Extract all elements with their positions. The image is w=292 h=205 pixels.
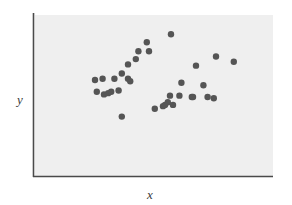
data-point bbox=[204, 94, 210, 100]
data-point bbox=[133, 56, 139, 62]
data-point bbox=[135, 48, 141, 54]
data-point bbox=[211, 95, 217, 101]
x-axis-label: x bbox=[146, 187, 153, 202]
data-point bbox=[146, 48, 152, 54]
data-point bbox=[115, 87, 121, 93]
data-point bbox=[144, 39, 150, 45]
data-point bbox=[176, 92, 182, 98]
data-point bbox=[119, 70, 125, 76]
data-point bbox=[193, 62, 199, 68]
data-point bbox=[119, 113, 125, 119]
data-point bbox=[125, 61, 131, 67]
data-point bbox=[94, 89, 100, 95]
data-point bbox=[213, 53, 219, 59]
scatter-plot-canvas: y x bbox=[0, 0, 292, 205]
data-point bbox=[99, 76, 105, 82]
data-point bbox=[200, 82, 206, 88]
data-point bbox=[167, 92, 173, 98]
data-point bbox=[231, 59, 237, 65]
data-point bbox=[178, 79, 184, 85]
y-axis-label: y bbox=[15, 92, 23, 107]
data-point bbox=[168, 31, 174, 37]
scatter-plot-figure: y x bbox=[0, 0, 292, 205]
data-point bbox=[108, 89, 114, 95]
data-point bbox=[190, 94, 196, 100]
data-point bbox=[170, 102, 176, 108]
data-point bbox=[127, 78, 133, 84]
data-point bbox=[111, 76, 117, 82]
plot-area-background bbox=[35, 15, 273, 176]
data-point bbox=[92, 77, 98, 83]
data-point bbox=[152, 106, 158, 112]
